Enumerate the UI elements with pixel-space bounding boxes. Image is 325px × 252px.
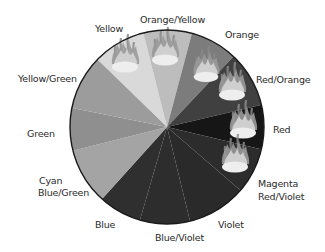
label-orange: Orange	[225, 29, 259, 41]
label-blue: Blue	[95, 219, 115, 231]
label-orange-yellow: Orange/Yellow	[140, 14, 205, 26]
label-yellow-green: Yellow/Green	[18, 73, 77, 85]
label-yellow: Yellow	[95, 23, 123, 35]
label-green: Green	[27, 128, 55, 140]
label-blue-violet: Blue/Violet	[155, 232, 204, 244]
label-blue-green: Blue/Green	[38, 187, 89, 199]
label-red-orange: Red/Orange	[256, 74, 310, 86]
label-magenta: Magenta	[258, 178, 298, 190]
label-cyan: Cyan	[39, 175, 62, 187]
label-violet: Violet	[218, 219, 244, 231]
label-red: Red	[273, 124, 290, 136]
label-red-violet: Red/Violet	[258, 191, 304, 203]
